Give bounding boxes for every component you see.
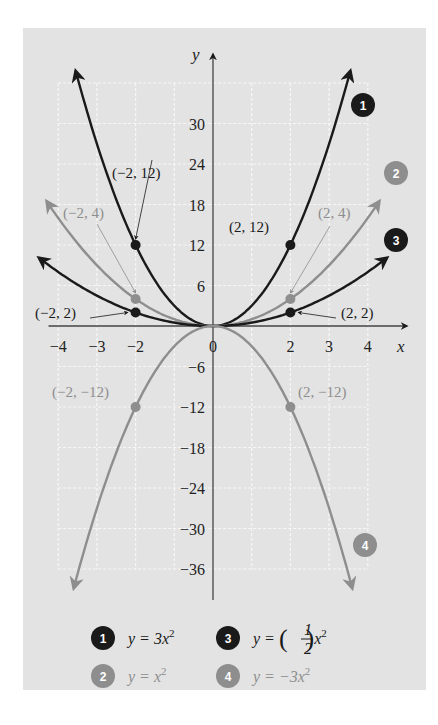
data-point — [131, 402, 141, 412]
y-tick-label: −18 — [180, 440, 205, 457]
legend-fraction-numerator: 1 — [304, 621, 312, 638]
x-tick-label: −2 — [127, 338, 144, 355]
y-tick-label: 12 — [189, 237, 205, 254]
y-tick-label: −6 — [188, 359, 205, 376]
y-tick-label: −30 — [180, 521, 205, 538]
y-tick-label: 18 — [189, 197, 205, 214]
legend-badge-number: 4 — [225, 670, 232, 684]
parabola-chart: xy−4−3−20234302418126−6−12−18−24−30−36(−… — [0, 0, 438, 725]
x-tick-label: −3 — [88, 338, 105, 355]
point-label: (−2, 4) — [63, 205, 104, 222]
point-label: (2, 12) — [229, 219, 269, 236]
y-tick-label: 6 — [197, 278, 205, 295]
y-tick-label: 24 — [189, 156, 205, 173]
data-point — [285, 402, 295, 412]
legend-equation: y = −3x2 — [251, 665, 310, 686]
y-tick-label: −36 — [180, 561, 205, 578]
x-tick-label: 2 — [286, 338, 294, 355]
series-badge-number: 4 — [362, 539, 369, 553]
x-axis-label: x — [396, 337, 405, 356]
data-point — [285, 308, 295, 318]
point-pointer-arrow — [298, 313, 336, 319]
y-tick-label: −24 — [180, 480, 205, 497]
point-label: (−2, −12) — [52, 384, 109, 401]
legend-badge-number: 1 — [100, 632, 107, 646]
data-point — [131, 240, 141, 250]
point-label: (2, −12) — [298, 384, 346, 401]
legend-equation: y = x2 — [126, 665, 167, 686]
legend-fraction-denominator: 2 — [304, 640, 312, 657]
series-badge-number: 3 — [393, 234, 400, 248]
x-tick-label: −4 — [50, 338, 67, 355]
legend-equation: y = 3x2 — [126, 627, 175, 648]
series-badge-number: 1 — [360, 99, 367, 113]
x-tick-label: 3 — [325, 338, 333, 355]
point-pointer-arrow — [90, 313, 128, 319]
y-axis-label: y — [190, 45, 200, 64]
point-label: (2, 2) — [341, 305, 374, 322]
point-label: (2, 4) — [318, 205, 351, 222]
legend-badge-number: 2 — [100, 670, 107, 684]
y-tick-label: −12 — [180, 399, 205, 416]
legend-badge-number: 3 — [225, 632, 232, 646]
point-label: (−2, 12) — [112, 165, 160, 182]
y-tick-label: 30 — [189, 116, 205, 133]
legend-equation: y = ( )x2 — [251, 624, 327, 653]
data-point — [285, 240, 295, 250]
series-badge-number: 2 — [393, 167, 400, 181]
point-label: (−2, 2) — [35, 305, 76, 322]
x-tick-label: 0 — [209, 338, 217, 355]
data-point — [131, 294, 141, 304]
x-tick-label: 4 — [364, 338, 372, 355]
data-point — [285, 294, 295, 304]
data-point — [131, 308, 141, 318]
